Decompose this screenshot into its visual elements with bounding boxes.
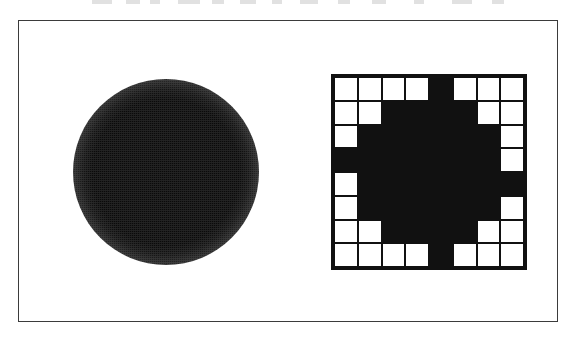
pixel-cell: [500, 220, 524, 244]
pixel-cell: [477, 243, 501, 267]
pixel-cell: [405, 101, 429, 125]
pixel-cell: [429, 243, 453, 267]
pixel-cell: [500, 196, 524, 220]
pixel-cell: [382, 220, 406, 244]
pixel-cell: [334, 243, 358, 267]
pixel-cell: [429, 77, 453, 101]
pixel-cell: [500, 172, 524, 196]
figure-root: [0, 0, 573, 340]
scan-speck: [272, 0, 282, 4]
pixel-cell: [453, 77, 477, 101]
scan-speck: [126, 0, 140, 4]
pixel-cell: [334, 77, 358, 101]
pixel-cell: [334, 148, 358, 172]
pixel-cell: [477, 172, 501, 196]
pixel-cell: [382, 77, 406, 101]
pixel-cell: [453, 196, 477, 220]
pixel-cell: [477, 220, 501, 244]
pixel-cell: [358, 125, 382, 149]
blurred-disk-shape: [73, 79, 259, 265]
pixel-cell: [500, 125, 524, 149]
pixel-cell: [405, 77, 429, 101]
pixel-cell: [477, 196, 501, 220]
pixel-cell: [477, 77, 501, 101]
pixel-cell: [358, 148, 382, 172]
scan-speck: [300, 0, 318, 4]
pixel-cell: [429, 148, 453, 172]
pixel-cell: [453, 243, 477, 267]
pixel-grid: [331, 74, 527, 270]
pixel-cell: [382, 172, 406, 196]
pixel-cell: [477, 148, 501, 172]
pixel-cell: [429, 101, 453, 125]
pixel-cell: [500, 243, 524, 267]
pixel-cell: [500, 77, 524, 101]
pixel-cell: [334, 196, 358, 220]
pixel-cell: [429, 196, 453, 220]
pixel-cell: [500, 101, 524, 125]
pixel-cell: [453, 148, 477, 172]
pixel-cell: [405, 243, 429, 267]
scan-speck: [452, 0, 472, 4]
scan-speck: [492, 0, 504, 4]
pixel-cell: [405, 148, 429, 172]
pixel-cell: [405, 196, 429, 220]
pixel-cell: [358, 220, 382, 244]
pixel-cell: [334, 172, 358, 196]
panel-quantized-disk: [319, 45, 539, 299]
scan-speck: [92, 0, 112, 4]
pixel-cell: [358, 243, 382, 267]
pixel-cell: [382, 243, 406, 267]
pixel-cell: [405, 172, 429, 196]
pixel-cell: [334, 220, 358, 244]
pixel-cell: [382, 125, 406, 149]
pixel-cell: [500, 148, 524, 172]
pixel-cell: [477, 125, 501, 149]
pixel-cell: [453, 125, 477, 149]
scan-speck: [414, 0, 424, 4]
pixel-cell: [405, 220, 429, 244]
panel-continuous-disk: [41, 45, 291, 299]
pixel-cell: [453, 172, 477, 196]
scan-speck: [150, 0, 160, 4]
scan-speck: [212, 0, 224, 4]
pixel-cell: [405, 125, 429, 149]
scan-speck: [178, 0, 200, 4]
scan-artifact-strip: [0, 0, 573, 6]
pixel-cell: [334, 125, 358, 149]
pixel-cell: [358, 172, 382, 196]
pixel-cell: [382, 101, 406, 125]
pixel-cell: [358, 101, 382, 125]
scan-speck: [338, 0, 350, 4]
pixel-cell: [429, 125, 453, 149]
pixel-cell: [429, 220, 453, 244]
pixel-cell: [358, 77, 382, 101]
scan-speck: [240, 0, 256, 4]
pixel-cell: [453, 101, 477, 125]
pixel-cell: [477, 101, 501, 125]
figure-border: [18, 20, 558, 322]
pixel-cell: [358, 196, 382, 220]
pixel-cell: [453, 220, 477, 244]
pixel-cell: [334, 101, 358, 125]
scan-speck: [372, 0, 386, 4]
pixel-cell: [429, 172, 453, 196]
pixel-cell: [382, 148, 406, 172]
pixel-cell: [382, 196, 406, 220]
